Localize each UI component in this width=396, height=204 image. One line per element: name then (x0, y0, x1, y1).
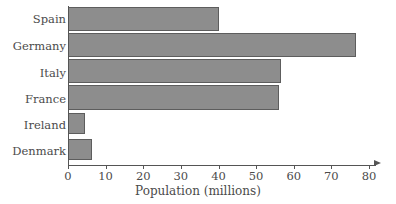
bar-denmark (68, 139, 92, 160)
bar-france (68, 85, 279, 110)
bar-chart: Spain Germany Italy France Ireland Denma… (0, 0, 396, 204)
x-axis-tick-label-40: 40 (211, 171, 226, 183)
x-axis-tick-label-70: 70 (324, 171, 339, 183)
category-label-ireland: Ireland (24, 120, 66, 132)
x-axis-tick-label-20: 20 (136, 171, 151, 183)
bar-italy (68, 59, 281, 83)
x-axis-tick-label-60: 60 (286, 171, 301, 183)
category-label-germany: Germany (13, 41, 66, 53)
x-axis-tick-label-0: 0 (64, 171, 71, 183)
category-label-france: France (25, 94, 66, 106)
x-axis-title: Population (millions) (0, 185, 396, 197)
category-label-italy: Italy (40, 68, 66, 80)
x-axis-tick-label-10: 10 (98, 171, 113, 183)
y-axis-line (68, 6, 69, 165)
x-axis-line (68, 165, 376, 166)
bar-ireland (68, 113, 85, 134)
x-axis-tick-label-50: 50 (249, 171, 264, 183)
category-label-denmark: Denmark (12, 146, 66, 158)
bar-germany (68, 33, 356, 57)
x-axis-arrow-icon (374, 160, 381, 166)
bar-spain (68, 7, 219, 31)
x-axis-tick-label-30: 30 (174, 171, 189, 183)
x-axis-tick-label-80: 80 (362, 171, 377, 183)
category-label-spain: Spain (33, 14, 66, 26)
